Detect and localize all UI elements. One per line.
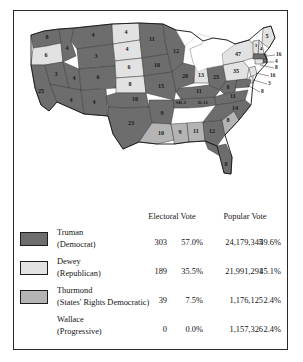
leader-ma [267,55,275,56]
state-label-il: 28 [182,73,188,79]
callout-label-ma: 16 [276,51,282,57]
electoral-votes-dewey: 189 [139,267,167,276]
state-label-mt: 4 [91,32,94,38]
candidate-name-wallace: Wallace [57,314,192,326]
callout-label-ct: 8 [275,64,278,70]
state-label-la: 10 [158,130,164,136]
legend-row-truman[interactable]: Truman (Democrat) 303 57.0% 24,179,345 4… [13,228,288,255]
state-label-tn-sr: SR-1 [176,100,187,105]
state-label-ms: 9 [178,129,181,135]
legend-row-thurmond[interactable]: Thurmond (States' Rights Democratic) 39 … [13,286,288,313]
electoral-pct-dewey: 35.5% [171,267,203,276]
state-label-me: 5 [265,33,268,39]
state-label-pa: 35 [233,68,239,74]
callout-label-md: 8 [261,88,264,94]
state-label-nv: 3 [54,71,57,77]
state-label-nm: 4 [92,99,95,105]
state-label-ca: 25 [38,88,44,94]
legend-row-dewey[interactable]: Dewey (Republican) 189 35.5% 21,991,291 … [13,257,288,284]
electoral-pct-wallace: 0.0% [171,325,203,334]
state-label-mo: 15 [158,83,164,89]
electoral-pct-thurmond: 7.5% [171,296,203,305]
electoral-votes-truman: 303 [139,238,167,247]
state-label-ut: 4 [72,75,75,81]
state-label-fl: 8 [224,161,227,167]
state-label-ar: 9 [160,110,163,116]
state-ri[interactable] [263,59,267,63]
legend-swatch-thurmond [20,290,48,304]
legend: Electoral Vote Popular Vote Truman (Demo… [13,206,288,350]
candidate-name-dewey: Dewey [57,256,192,268]
leader-md [247,85,260,92]
state-label-ny: 47 [235,51,241,57]
legend-swatch-truman [20,232,48,246]
state-label-sd: 4 [125,46,128,52]
state-ok[interactable] [106,93,149,108]
state-label-va: 11 [230,93,236,99]
state-label-ok: 10 [132,96,138,102]
legend-row-wallace[interactable]: Wallace (Progressive) 0 0.0% 1,157,326 2… [13,315,288,342]
state-label-nc: 14 [232,105,238,111]
state-md[interactable] [235,79,251,88]
legend-swatch-dewey [20,261,48,275]
state-label-sc: 8 [226,117,229,123]
popular-pct-thurmond: 2.4% [247,296,281,305]
state-label-tx: 23 [128,120,134,126]
state-label-nd: 4 [124,29,127,35]
leader-ct [260,65,274,68]
electoral-votes-wallace: 0 [139,325,167,334]
state-nj[interactable] [249,66,257,77]
state-label-ne: 6 [127,64,130,70]
callout-label-de: 3 [268,80,271,86]
state-label-wi: 12 [173,48,179,54]
leader-de [253,80,267,84]
state-ct[interactable] [255,59,263,64]
header-electoral-vote: Electoral Vote [141,212,203,221]
election-map-figure: 8 6 25 3 4 4 3 4 4 [0,0,303,362]
state-label-oh: 25 [213,74,219,80]
us-election-map: 8 6 25 3 4 4 3 4 4 [13,10,288,206]
state-label-wy: 3 [94,53,97,59]
legend-header: Electoral Vote Popular Vote [13,212,288,226]
map-svg: 8 6 25 3 4 4 3 4 4 [13,10,288,206]
callout-label-nj: 16 [270,72,276,78]
state-label-ky: 11 [196,88,202,94]
state-label-co: 6 [96,74,99,80]
leader-nj [256,73,269,76]
popular-pct-dewey: 45.1% [247,267,281,276]
electoral-votes-thurmond: 39 [139,296,167,305]
candidate-name-thurmond: Thurmond [57,285,207,297]
header-popular-vote: Popular Vote [209,212,281,221]
state-label-or: 6 [44,52,47,58]
state-label-ks: 8 [128,81,131,87]
state-label-ga: 12 [209,128,215,134]
state-label-az: 4 [69,97,72,103]
candidate-name-truman: Truman [57,227,192,239]
state-label-id: 4 [65,45,68,51]
state-label-al: 11 [193,128,199,134]
state-label-wa: 8 [45,34,48,40]
state-label-wv: 8 [227,84,230,90]
state-label-ia: 10 [154,62,160,68]
electoral-pct-truman: 57.0% [171,238,203,247]
state-label-tn: D-11 [198,100,209,105]
popular-pct-wallace: 2.4% [247,325,281,334]
popular-pct-truman: 49.6% [247,238,281,247]
state-label-in: 13 [198,72,204,78]
state-label-mn: 11 [149,36,155,42]
state-fl[interactable] [205,141,232,174]
